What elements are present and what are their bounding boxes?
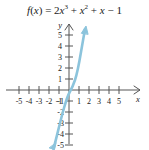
y-tick-label: 3 (58, 53, 62, 62)
math-figure-cubic-graph: f(x) = 2x3 + x2 + x − 1 (0, 0, 149, 150)
curve-arrow-up-icon (82, 26, 89, 34)
title-equals: = (45, 4, 51, 16)
function-formula-title: f(x) = 2x3 + x2 + x − 1 (0, 0, 149, 17)
y-tick-label: 2 (58, 64, 62, 73)
title-minus: − (107, 4, 113, 16)
y-tick-label: 1 (58, 75, 62, 84)
title-exponent-3: 3 (64, 3, 68, 11)
title-plus-1: + (71, 4, 77, 16)
coordinate-plane: -5 -4 -3 -2 -1 1 2 3 4 5 5 4 3 2 1 -1 -2… (0, 16, 149, 150)
x-axis-label: x (135, 94, 140, 104)
y-tick-label: 4 (58, 42, 62, 51)
title-paren-close: ) (39, 4, 43, 16)
title-var-4: x (100, 4, 105, 16)
x-tick-label: 4 (107, 97, 111, 106)
x-tick-label: 1 (77, 97, 81, 106)
x-tick-label: -2 (46, 97, 53, 106)
x-tick-label: 3 (97, 97, 101, 106)
x-tick-label: -4 (26, 97, 33, 106)
x-tick-label: 5 (117, 97, 121, 106)
y-tick-label: -1 (57, 97, 64, 106)
y-axis-label: y (57, 20, 62, 30)
title-constant-1: 1 (116, 4, 122, 16)
title-plus-2: + (91, 4, 97, 16)
y-tick-label: 5 (58, 31, 62, 40)
x-tick-label: -3 (36, 97, 43, 106)
x-tick-label: 2 (87, 97, 91, 106)
curve-arrow-down-icon (50, 143, 57, 150)
title-exponent-2: 2 (85, 3, 89, 11)
y-tick-label: -5 (57, 141, 64, 150)
x-tick-label: -5 (16, 97, 23, 106)
